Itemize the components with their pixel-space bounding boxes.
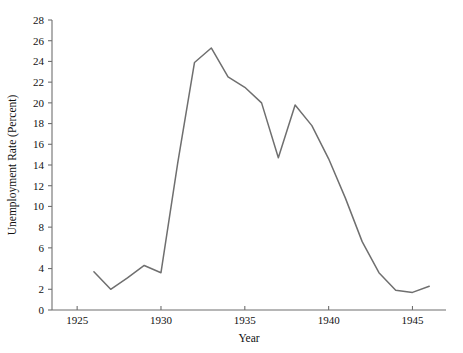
x-tick-label: 1930 — [150, 314, 173, 326]
unemployment-rate-line-chart: 0246810121416182022242628 19251930193519… — [0, 0, 463, 353]
y-tick-label: 24 — [33, 55, 45, 67]
y-axis-title: Unemployment Rate (Percent) — [6, 95, 19, 236]
data-line-unemployment-rate — [94, 48, 429, 292]
x-tick-label: 1935 — [234, 314, 257, 326]
y-tick-label: 18 — [33, 117, 45, 129]
x-axis-title: Year — [238, 332, 259, 344]
y-tick-label: 12 — [33, 180, 44, 192]
x-tick-label: 1945 — [401, 314, 424, 326]
y-tick-label: 8 — [39, 221, 45, 233]
x-tick-label: 1925 — [66, 314, 89, 326]
y-tick-label: 6 — [39, 242, 45, 254]
x-axis: 19251930193519401945 — [52, 306, 446, 326]
y-axis: 0246810121416182022242628 — [33, 14, 52, 316]
chart-canvas: 0246810121416182022242628 19251930193519… — [0, 0, 463, 353]
y-tick-label: 26 — [33, 35, 45, 47]
y-tick-label: 0 — [39, 304, 45, 316]
y-tick-label: 28 — [33, 14, 45, 26]
y-tick-label: 16 — [33, 138, 45, 150]
data-series-group — [94, 48, 429, 292]
y-tick-label: 10 — [33, 200, 45, 212]
x-tick-label: 1940 — [318, 314, 341, 326]
y-tick-label: 20 — [33, 97, 45, 109]
y-tick-label: 2 — [39, 283, 45, 295]
y-tick-label: 22 — [33, 76, 44, 88]
y-tick-label: 4 — [39, 262, 45, 274]
y-tick-label: 14 — [33, 159, 45, 171]
